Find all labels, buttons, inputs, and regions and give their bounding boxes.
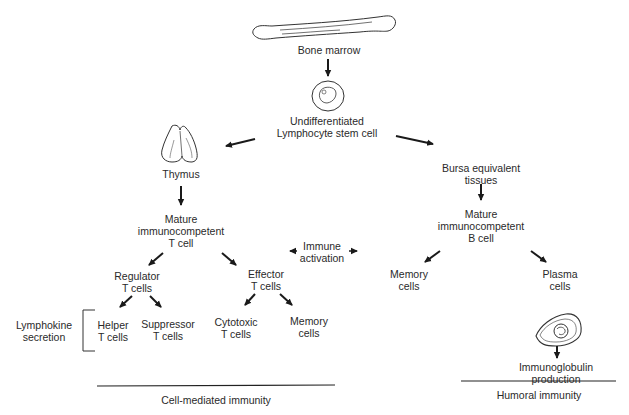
- label-mature-b-cell: Mature immunocompetent B cell: [438, 208, 524, 244]
- label-lymphokine-secretion: Lymphokine secretion: [16, 319, 72, 343]
- diagram-graphics: [0, 0, 629, 415]
- label-effector-t-cells: Effector T cells: [248, 268, 284, 292]
- stem-cell-icon: [312, 81, 344, 111]
- arrow-effector-to-memory: [280, 294, 292, 305]
- label-immunoglobulin-production: Immunoglobulin production: [519, 361, 593, 385]
- label-suppressor-t-cells: Suppressor T cells: [141, 318, 195, 342]
- label-regulator-t-cells: Regulator T cells: [114, 270, 160, 294]
- label-cytotoxic-t-cells: Cytotoxic T cells: [214, 316, 257, 340]
- label-memory-b-cells: Memory cells: [390, 268, 428, 292]
- bone-icon: [253, 16, 396, 39]
- arrow-regulator-to-helper: [120, 296, 132, 307]
- arrow-stem-to-bursa: [396, 136, 433, 144]
- lymphokine-bracket: [83, 310, 95, 351]
- label-helper-t-cells: Helper T cells: [98, 319, 129, 343]
- label-stem-cell: Undifferentiated Lymphocyte stem cell: [277, 115, 378, 139]
- section-humoral-immunity: Humoral immunity: [497, 389, 582, 401]
- section-cell-mediated-immunity: Cell-mediated immunity: [161, 394, 271, 406]
- cell-mediated-rule: [97, 385, 335, 386]
- label-bone-marrow: Bone marrow: [298, 44, 360, 56]
- arrow-effector-to-cytotoxic: [245, 294, 255, 305]
- label-memory-t-cells: Memory cells: [290, 315, 328, 339]
- label-mature-t-cell: Mature immunocompetent T cell: [138, 213, 224, 249]
- arrow-mature-b-to-plasma: [531, 251, 546, 262]
- label-plasma-cells: Plasma cells: [542, 268, 577, 292]
- arrow-stem-to-thymus: [226, 139, 255, 146]
- arrow-mature-t-to-effector: [222, 253, 236, 265]
- label-thymus: Thymus: [162, 168, 199, 180]
- arrow-mature-b-to-memory: [425, 251, 440, 262]
- label-immune-activation: Immune activation: [300, 240, 344, 264]
- arrow-mature-t-to-regulator: [149, 253, 163, 265]
- thymus-icon: [162, 125, 198, 162]
- arrow-regulator-to-suppressor: [150, 296, 161, 307]
- plasma-cell-icon: [536, 314, 581, 346]
- label-bursa-tissues: Bursa equivalent tissues: [442, 162, 520, 186]
